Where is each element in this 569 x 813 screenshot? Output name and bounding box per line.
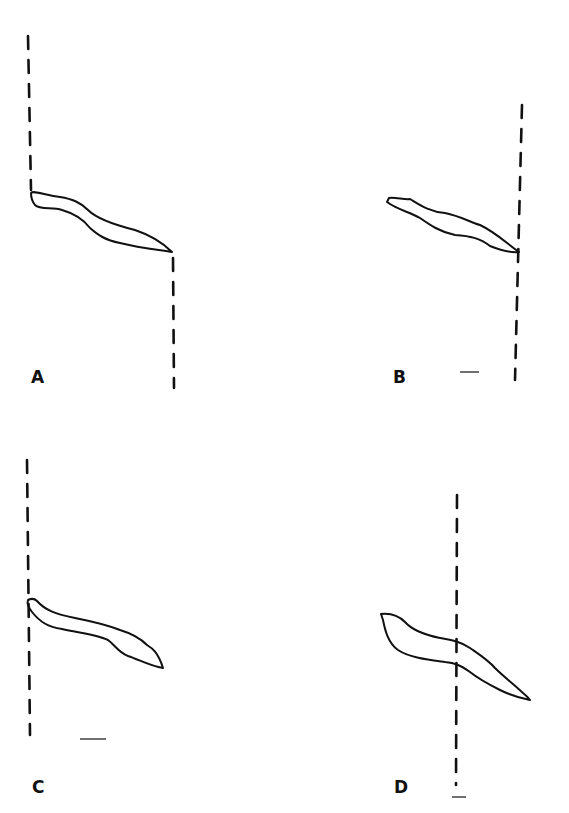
panel-d xyxy=(381,495,530,797)
dashed-reference-line xyxy=(515,105,522,380)
dashed-reference-line-lower xyxy=(173,258,174,388)
panel-label-b: B xyxy=(393,369,406,386)
panel-label-a: A xyxy=(31,369,44,386)
dashed-reference-line xyxy=(27,460,30,735)
figure-canvas xyxy=(0,0,569,813)
panel-label-d: D xyxy=(394,779,408,796)
panel-a xyxy=(28,36,174,388)
cell-outline xyxy=(28,599,163,668)
cell-outline xyxy=(31,192,172,252)
panel-b xyxy=(387,105,522,380)
cell-outline xyxy=(387,198,519,252)
panel-c xyxy=(27,460,163,739)
dashed-reference-line-upper xyxy=(28,36,31,190)
dashed-reference-line xyxy=(456,495,457,785)
panel-label-c: C xyxy=(32,779,44,796)
